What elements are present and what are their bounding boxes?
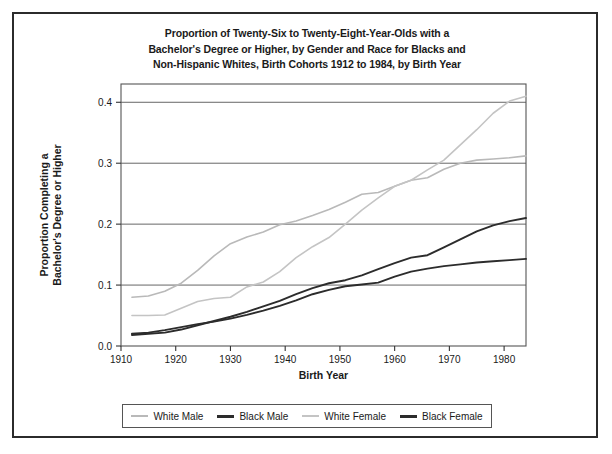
legend-line-swatch-white-male <box>131 415 148 417</box>
x-tick-label: 1960 <box>384 354 407 365</box>
x-tick-label: 1950 <box>329 354 352 365</box>
legend-item: White Male <box>131 411 203 422</box>
y-axis-title-line-2: Bachelor's Degree or Higher <box>51 144 63 285</box>
legend-item: White Female <box>302 411 386 422</box>
series-line-black-female <box>132 259 526 334</box>
x-tick-label: 1910 <box>110 354 133 365</box>
line-chart-plot: 19101920193019401950196019701980 0.00.10… <box>14 14 600 440</box>
y-tick-label: 0.3 <box>98 158 112 169</box>
chart-legend: White Male Black Male White Female Black… <box>122 404 492 428</box>
legend-line-swatch-black-female <box>400 415 417 418</box>
x-axis-title: Birth Year <box>299 369 348 381</box>
y-axis-title-line-1: Proportion Completing a <box>38 153 50 276</box>
y-tick-label: 0.2 <box>98 219 112 230</box>
legend-item: Black Male <box>217 411 288 422</box>
legend-label: White Male <box>153 411 203 422</box>
legend-line-swatch-white-female <box>302 415 319 417</box>
plot-frame <box>121 84 526 346</box>
x-tick-label: 1920 <box>165 354 188 365</box>
x-tick-label: 1940 <box>274 354 297 365</box>
legend-label: Black Female <box>422 411 483 422</box>
series-lines <box>132 96 526 335</box>
gridlines <box>121 102 526 285</box>
legend-item: Black Female <box>400 411 483 422</box>
y-axis-tick-labels: 0.00.10.20.30.4 <box>98 97 112 352</box>
legend-line-swatch-black-male <box>217 415 234 418</box>
y-tick-label: 0.1 <box>98 280 112 291</box>
x-axis-tick-labels: 19101920193019401950196019701980 <box>110 354 516 365</box>
y-tick-label: 0.0 <box>98 341 112 352</box>
axis-lines <box>116 84 526 351</box>
series-line-white-male <box>132 156 526 297</box>
x-tick-label: 1980 <box>493 354 516 365</box>
legend-label: White Female <box>324 411 386 422</box>
legend-label: Black Male <box>239 411 288 422</box>
figure-border: Proportion of Twenty-Six to Twenty-Eight… <box>12 12 598 438</box>
y-tick-label: 0.4 <box>98 97 112 108</box>
x-tick-label: 1970 <box>438 354 461 365</box>
x-tick-label: 1930 <box>219 354 242 365</box>
